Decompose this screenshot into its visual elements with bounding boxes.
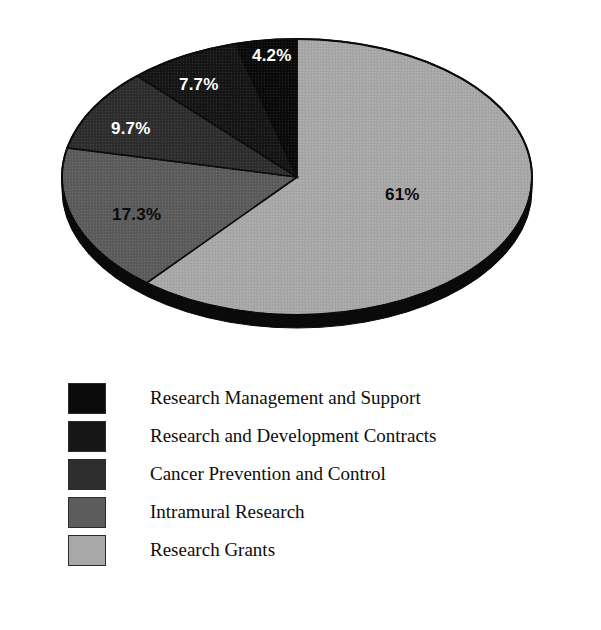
pie-plot-area: 4.2% 7.7% 9.7% 17.3% 61% xyxy=(0,0,601,345)
legend-item-cancer-prevention: Cancer Prevention and Control xyxy=(68,455,538,493)
chart-legend: Research Management and Support Research… xyxy=(68,379,538,569)
pie-value-label-research-management: 4.2% xyxy=(252,47,292,64)
legend-item-rd-contracts: Research and Development Contracts xyxy=(68,417,538,455)
legend-label: Cancer Prevention and Control xyxy=(150,464,386,485)
legend-item-intramural-research: Intramural Research xyxy=(68,493,538,531)
pie-chart-svg xyxy=(0,0,601,345)
pie-value-label-intramural-research: 17.3% xyxy=(112,206,161,223)
pie-texture-overlay xyxy=(62,39,532,315)
legend-label: Research and Development Contracts xyxy=(150,426,436,447)
pie-value-label-research-grants: 61% xyxy=(385,186,420,203)
pie-chart-figure: 4.2% 7.7% 9.7% 17.3% 61% Research Manage… xyxy=(0,0,601,630)
legend-swatch-icon xyxy=(68,383,106,414)
legend-swatch-icon xyxy=(68,497,106,528)
legend-item-research-management: Research Management and Support xyxy=(68,379,538,417)
legend-label: Intramural Research xyxy=(150,502,305,523)
legend-item-research-grants: Research Grants xyxy=(68,531,538,569)
legend-label: Research Management and Support xyxy=(150,388,421,409)
legend-swatch-icon xyxy=(68,535,106,566)
pie-value-label-cancer-prevention: 9.7% xyxy=(111,120,151,137)
pie-value-label-rd-contracts: 7.7% xyxy=(179,76,219,93)
legend-swatch-icon xyxy=(68,421,106,452)
legend-label: Research Grants xyxy=(150,540,275,561)
legend-swatch-icon xyxy=(68,459,106,490)
